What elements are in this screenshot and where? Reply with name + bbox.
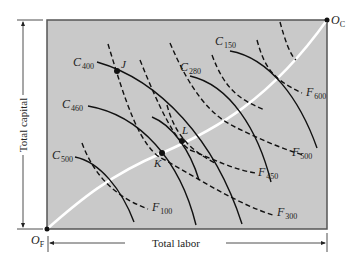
edgeworth-box-diagram: J K L C400 C460 C500 C280 C150 F100 F300… [0, 0, 359, 262]
arrow-down-icon [21, 223, 25, 228]
point-l [179, 138, 185, 144]
label-k: K [153, 157, 162, 169]
arrow-up-icon [21, 21, 25, 26]
axis-label-total-capital: Total capital [17, 98, 29, 153]
origin-c-dot [325, 18, 330, 23]
origin-f-dot [45, 227, 50, 232]
arrow-left-icon [49, 241, 54, 245]
label-origin-c: OC [331, 13, 345, 29]
point-k [159, 150, 165, 156]
point-j [114, 68, 120, 74]
label-origin-f: OF [31, 233, 45, 249]
label-l: L [181, 124, 188, 136]
axis-label-total-labor: Total labor [152, 237, 200, 249]
arrow-right-icon [321, 241, 326, 245]
